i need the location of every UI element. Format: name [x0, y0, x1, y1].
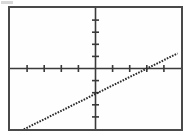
plot-area[interactable]	[10, 8, 181, 129]
screenshot-root	[0, 0, 191, 140]
corner-artifact	[1, 1, 13, 4]
graph-panel[interactable]	[8, 6, 183, 131]
